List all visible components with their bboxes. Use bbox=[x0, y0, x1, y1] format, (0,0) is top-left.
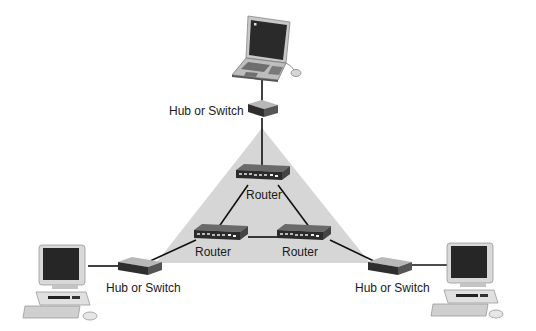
desktop-pc-right-icon bbox=[431, 243, 503, 318]
hub-top-label: Hub or Switch bbox=[169, 104, 244, 118]
router-right-label: Router bbox=[282, 245, 318, 259]
router-right-icon bbox=[277, 224, 331, 240]
router-top-label: Router bbox=[246, 188, 282, 202]
hub-right-icon bbox=[368, 257, 412, 275]
laptop-icon bbox=[232, 16, 301, 82]
hub-left-label: Hub or Switch bbox=[106, 281, 181, 295]
hub-left-icon bbox=[118, 257, 162, 275]
desktop-pc-left-icon bbox=[23, 245, 97, 320]
router-left-label: Router bbox=[195, 245, 231, 259]
network-diagram bbox=[0, 0, 536, 331]
hub-right-label: Hub or Switch bbox=[355, 281, 430, 295]
router-left-icon bbox=[194, 224, 248, 240]
router-top-icon bbox=[236, 164, 290, 180]
hub-top-icon bbox=[248, 100, 278, 117]
